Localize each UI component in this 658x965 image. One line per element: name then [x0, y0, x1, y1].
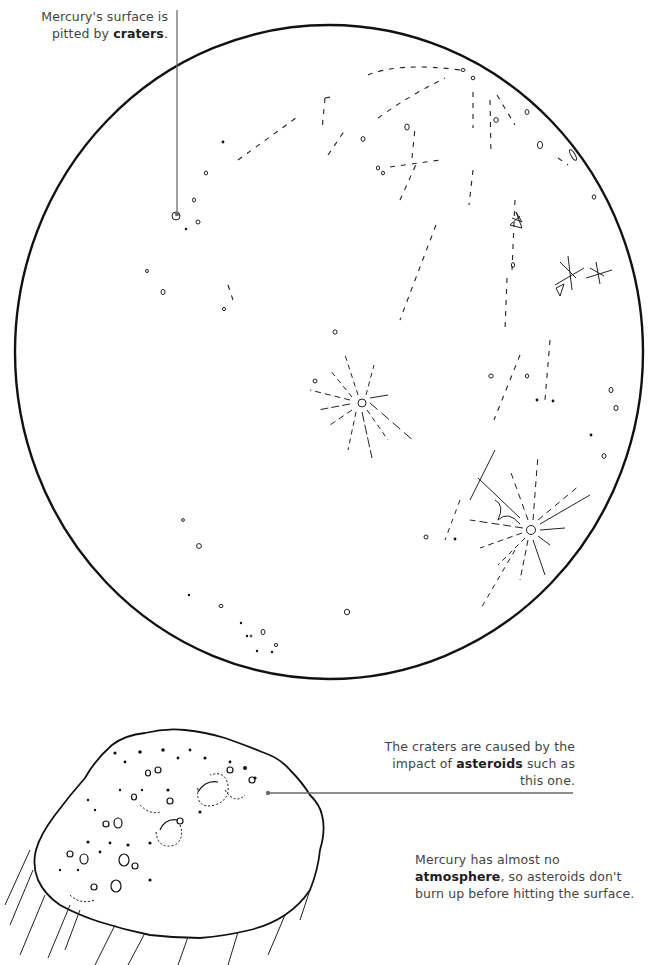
asteroid: [5, 729, 324, 965]
crater-dots: [185, 141, 593, 654]
crater-rays-top: [228, 67, 568, 420]
star-craters: [510, 212, 612, 296]
illustration-canvas: [0, 0, 658, 965]
rayed-crater-center: [310, 355, 415, 458]
asteroids-leader-line: [266, 791, 573, 795]
craters-leader-line: [175, 10, 179, 216]
mercury-planet: [15, 10, 643, 679]
rayed-crater-lower: [445, 450, 590, 610]
small-craters: [146, 69, 618, 647]
